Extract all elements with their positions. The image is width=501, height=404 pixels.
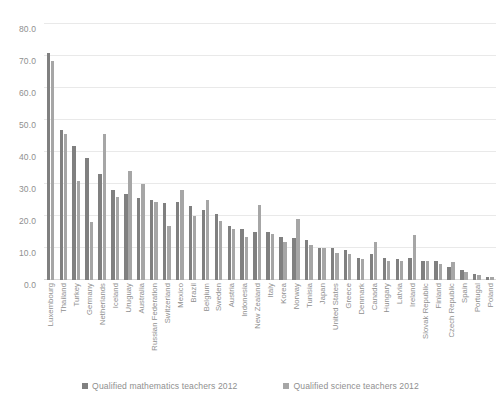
x-axis-tick-label: Italy (266, 283, 275, 297)
bar (296, 219, 299, 280)
x-axis-label-cell: Ireland (406, 283, 419, 371)
x-axis-label-cell: Greece (341, 283, 354, 371)
x-axis-label-cell: Germany (83, 283, 96, 371)
bar-group (277, 24, 290, 280)
bar-group (186, 24, 199, 280)
bar (245, 237, 248, 280)
x-axis-tick-label: Uruguay (123, 283, 132, 312)
bar-group (354, 24, 367, 280)
bar (180, 190, 183, 280)
bar (240, 229, 243, 280)
x-axis-tick-label: United States (330, 283, 339, 330)
x-axis-labels: LuxembourgThailandTurkeyGermanyNetherlan… (44, 283, 496, 371)
x-axis-tick-label: Turkey (72, 283, 81, 307)
bar (344, 250, 347, 280)
bar-group (199, 24, 212, 280)
x-axis-tick-label: Russian Federation (149, 283, 158, 351)
bar (90, 222, 93, 280)
bar-group (212, 24, 225, 280)
bar (309, 245, 312, 280)
x-axis-tick-label: Mexico (175, 283, 184, 308)
x-axis-tick-label: Hungary (382, 283, 391, 312)
x-axis-label-cell: Switzerland (160, 283, 173, 371)
x-axis-label-cell: Netherlands (96, 283, 109, 371)
bar-group (83, 24, 96, 280)
bar (331, 248, 334, 280)
x-axis-tick-label: Netherlands (98, 283, 107, 325)
bar (141, 184, 144, 280)
bar (387, 261, 390, 280)
bar (421, 261, 424, 280)
legend-item[interactable]: Qualified mathematics teachers 2012 (82, 381, 237, 391)
bar (283, 242, 286, 280)
bar-group (134, 24, 147, 280)
bar (47, 53, 50, 280)
x-axis-label-cell: Norway (290, 283, 303, 371)
bar-group (445, 24, 458, 280)
bar-groups (44, 24, 496, 280)
x-axis-label-cell: Luxembourg (44, 283, 57, 371)
legend-swatch-icon (283, 383, 289, 389)
x-axis-tick-label: Iceland (111, 283, 120, 308)
bar (271, 234, 274, 280)
x-axis-tick-label: Thailand (59, 283, 68, 313)
x-axis-label-cell: Russian Federation (147, 283, 160, 371)
x-axis-tick-label: Canada (369, 283, 378, 310)
x-axis-label-cell: Indonesia (238, 283, 251, 371)
bar (206, 200, 209, 280)
x-axis-label-cell: New Zealand (251, 283, 264, 371)
bar (111, 190, 114, 280)
x-axis-tick-label: Finland (434, 283, 443, 309)
x-axis-tick-label: Sweden (214, 283, 223, 311)
bar (253, 232, 256, 280)
bar (400, 261, 403, 280)
legend-item[interactable]: Qualified science teachers 2012 (283, 381, 418, 391)
bar-group (328, 24, 341, 280)
x-axis-label-cell: Poland (483, 283, 496, 371)
bar (128, 171, 131, 280)
x-axis-label-cell: Hungary (380, 283, 393, 371)
bar (60, 130, 63, 280)
x-axis-label-cell: Uruguay (122, 283, 135, 371)
bar (167, 226, 170, 280)
x-axis-tick-label: Australia (136, 283, 145, 313)
bar (460, 270, 463, 280)
x-axis-tick-label: Belgium (201, 283, 210, 311)
x-axis-label-cell: Denmark (354, 283, 367, 371)
bar (228, 226, 231, 280)
x-axis-tick-label: Norway (291, 283, 300, 309)
bar-group (406, 24, 419, 280)
bar-group (302, 24, 315, 280)
y-axis-labels: 0.010.020.030.040.050.060.070.080.0 (0, 24, 40, 280)
x-axis-label-cell: Brazil (186, 283, 199, 371)
bar (258, 205, 261, 280)
bar-group (109, 24, 122, 280)
x-axis-tick-label: Switzerland (162, 283, 171, 323)
x-axis-tick-label: Japan (317, 283, 326, 304)
bar (370, 254, 373, 280)
bar-group (458, 24, 471, 280)
bar (98, 174, 101, 280)
bar-group (122, 24, 135, 280)
x-axis-label-cell: Latvia (393, 283, 406, 371)
bar-group (380, 24, 393, 280)
bar (335, 253, 338, 280)
x-axis-label-cell: Spain (458, 283, 471, 371)
x-axis-tick-label: Czech Republic (447, 283, 456, 338)
bar (163, 203, 166, 280)
bar (77, 181, 80, 280)
x-axis-label-cell: Australia (134, 283, 147, 371)
x-axis-label-cell: Korea (277, 283, 290, 371)
bar (439, 264, 442, 280)
bar (447, 267, 450, 280)
bar-group (160, 24, 173, 280)
bar (176, 202, 179, 280)
bar (451, 262, 454, 280)
legend-label: Qualified science teachers 2012 (293, 381, 418, 391)
bar-group (290, 24, 303, 280)
bar-group (483, 24, 496, 280)
x-axis-label-cell: Portugal (470, 283, 483, 371)
x-axis-label-cell: Czech Republic (445, 283, 458, 371)
x-axis-tick-label: Latvia (395, 283, 404, 304)
x-axis-tick-label: Germany (85, 283, 94, 315)
